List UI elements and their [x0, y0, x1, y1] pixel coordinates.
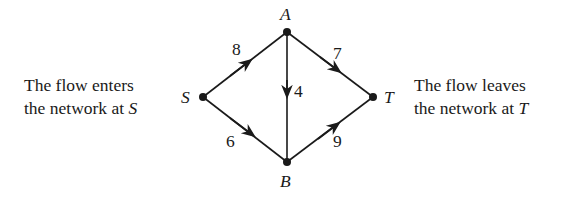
edge-s-b: 6	[203, 97, 287, 162]
node-label-a: A	[279, 4, 291, 24]
node-label-s: S	[181, 87, 190, 107]
node-label-t: T	[384, 87, 395, 107]
node-a: A	[279, 4, 291, 36]
edge-weight-a-b: 4	[294, 81, 303, 101]
edge-weight-s-a: 8	[232, 39, 241, 59]
edge-weight-a-t: 7	[333, 43, 342, 63]
edge-b-t: 9	[287, 97, 373, 162]
edge-s-a: 8	[203, 32, 287, 97]
edge-weight-b-t: 9	[333, 131, 342, 151]
edge-weight-s-b: 6	[226, 131, 235, 151]
node-b: B	[280, 158, 291, 191]
node-label-b: B	[280, 171, 291, 191]
node-s: S	[181, 87, 207, 107]
edge-a-b: 4	[287, 32, 303, 162]
node-t: T	[369, 87, 395, 107]
flow-network-diagram: 8 6 4 7 9 S A B T	[0, 0, 575, 199]
